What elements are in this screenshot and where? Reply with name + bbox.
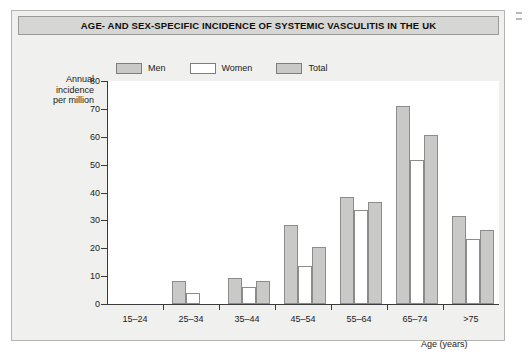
bar-total-5 [424,135,438,304]
y-axis-tick-label: 40 [54,188,100,198]
chart-legend: MenWomenTotal [116,61,327,75]
x-axis-separator-tick [387,305,388,310]
y-axis-tick [101,220,107,221]
y-axis-tick-label: 70 [54,104,100,114]
y-axis-tick-label: 50 [54,160,100,170]
y-axis-tick-label: 0 [54,299,100,309]
x-axis-category-label: 45–54 [290,314,315,324]
y-axis-tick [101,248,107,249]
legend-item-men: Men [116,63,166,74]
bar-total-6 [480,230,494,304]
y-axis-tick-label: 80 [54,76,100,86]
y-axis-tick [101,304,107,305]
y-axis-tick [101,81,107,82]
legend-label: Total [308,63,327,73]
x-axis-category-label: >75 [463,314,478,324]
legend-swatch-total [276,63,302,74]
bar-women-2 [242,287,256,304]
x-axis-category-label: 65–74 [402,314,427,324]
bar-men-5 [396,106,410,304]
x-axis-separator-tick [443,305,444,310]
y-axis-tick-label: 10 [54,271,100,281]
x-axis-category-label: 35–44 [234,314,259,324]
y-axis-tick [101,193,107,194]
page-title: AGE- AND SEX-SPECIFIC INCIDENCE OF SYSTE… [81,20,436,31]
legend-label: Women [222,63,253,73]
legend-item-women: Women [190,63,253,74]
page-edge-artifact [516,12,529,26]
bar-women-5 [410,160,424,304]
y-axis-tick-label: 60 [54,132,100,142]
x-axis-line [107,304,499,305]
x-axis-category-label: 55–64 [346,314,371,324]
y-axis-tick-labels: 01020304050607080 [52,11,100,363]
bar-men-4 [340,197,354,304]
bar-women-4 [354,210,368,304]
bars-layer [108,81,499,304]
legend-item-total: Total [276,63,327,74]
x-axis-separator-tick [219,305,220,310]
x-axis-title: Age (years) [421,339,468,349]
bar-women-6 [466,239,480,305]
bar-women-3 [298,266,312,304]
y-axis-tick [101,165,107,166]
figure-panel: AGE- AND SEX-SPECIFIC INCIDENCE OF SYSTE… [11,10,505,341]
bar-total-4 [368,202,382,304]
y-axis-tick-label: 20 [54,243,100,253]
y-axis-tick-label: 30 [54,215,100,225]
bar-women-1 [186,293,200,304]
x-axis-separator-tick [163,305,164,310]
x-axis-separator-tick [331,305,332,310]
y-axis-tick [101,109,107,110]
bar-men-1 [172,281,186,304]
x-axis-category-label: 15–24 [122,314,147,324]
bar-men-2 [228,278,242,304]
x-axis-separator-tick [275,305,276,310]
y-axis-tick [101,276,107,277]
legend-label: Men [148,63,166,73]
bar-total-3 [312,247,326,304]
bar-men-3 [284,225,298,304]
x-axis-category-label: 25–34 [178,314,203,324]
bar-men-6 [452,216,466,304]
y-axis-tick [101,137,107,138]
bar-total-2 [256,281,270,304]
legend-swatch-women [190,63,216,74]
legend-swatch-men [116,63,142,74]
